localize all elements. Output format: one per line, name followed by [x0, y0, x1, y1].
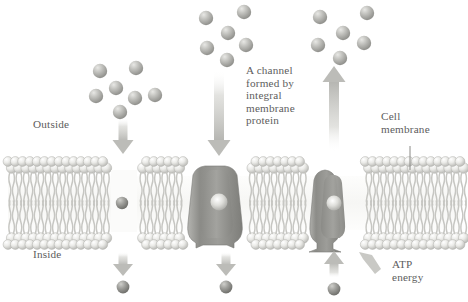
- canvas-background: [0, 0, 468, 302]
- molecule: [89, 89, 103, 103]
- molecule: [148, 88, 162, 102]
- diffusing-molecule-in-bilayer: [116, 197, 128, 209]
- molecule: [200, 41, 214, 55]
- label-outside: Outside: [33, 118, 69, 131]
- phospholipid-head-inner: [295, 240, 305, 250]
- molecule: [357, 36, 371, 50]
- phospholipid-head-outer: [98, 157, 108, 167]
- phospholipid-head-outer: [295, 157, 305, 167]
- phospholipid-head-inner: [178, 240, 188, 250]
- label-inside: Inside: [33, 248, 62, 261]
- transported-molecule-simple: [117, 281, 130, 294]
- diagram-canvas: [0, 0, 468, 302]
- integral-membrane-channel-protein: [188, 166, 243, 248]
- cell-membrane-diagram: Outside Inside A channel formed by integ…: [0, 0, 468, 302]
- molecule: [113, 105, 127, 119]
- phospholipid-head-inner: [98, 240, 108, 250]
- transported-molecule-channel: [220, 281, 233, 294]
- phospholipid-head-outer: [455, 157, 465, 167]
- molecule: [220, 53, 234, 67]
- molecule: [336, 26, 350, 40]
- molecule: [129, 61, 143, 75]
- label-channel-protein: A channel formed by integral membrane pr…: [246, 64, 295, 127]
- phospholipid-head-outer: [178, 157, 188, 167]
- transported-molecule-pump: [328, 283, 341, 296]
- molecule: [311, 38, 325, 52]
- molecule: [237, 5, 251, 19]
- molecule: [93, 64, 107, 78]
- molecule: [313, 10, 327, 24]
- phospholipid-head-inner: [455, 240, 465, 250]
- molecule-in-channel: [211, 194, 228, 211]
- simple-diffusion-site: [111, 170, 137, 232]
- molecule: [360, 6, 374, 20]
- molecule: [333, 51, 347, 65]
- molecule: [109, 81, 123, 95]
- molecule-in-pump: [327, 196, 342, 211]
- molecule: [221, 26, 235, 40]
- molecule: [199, 11, 213, 25]
- molecule: [128, 91, 142, 105]
- label-cell-membrane: Cell membrane: [381, 110, 430, 135]
- molecule: [239, 38, 253, 52]
- label-atp-energy: ATP energy: [392, 258, 423, 283]
